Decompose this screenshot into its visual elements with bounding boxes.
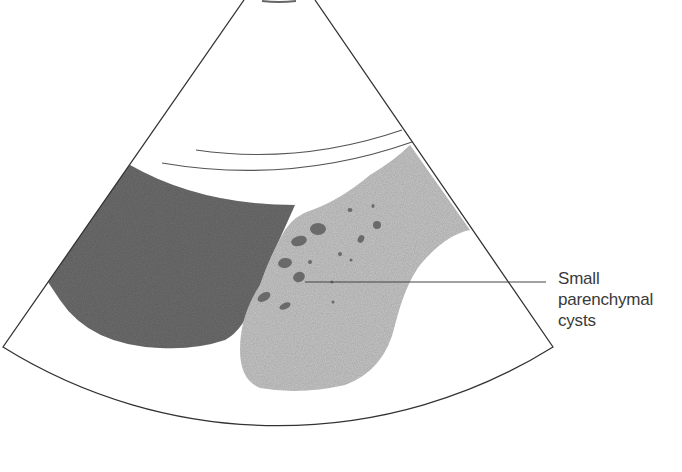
cysts-annotation-label: Small parenchymal cysts	[558, 268, 653, 331]
label-line-3: cysts	[558, 310, 653, 331]
label-line-2: parenchymal	[558, 289, 653, 310]
label-line-1: Small	[558, 268, 653, 289]
echo-line-upper	[196, 130, 402, 155]
echo-line-lower	[162, 142, 412, 170]
ultrasound-diagram	[0, 0, 682, 472]
cyst	[372, 204, 375, 208]
cyst	[338, 252, 342, 256]
cyst	[348, 208, 353, 212]
light-parenchyma-region	[240, 145, 470, 391]
cyst	[310, 223, 326, 235]
cyst	[332, 301, 335, 304]
cyst	[373, 221, 381, 229]
cyst	[308, 260, 312, 264]
transducer-mark	[262, 1, 296, 2]
cyst	[350, 259, 353, 262]
